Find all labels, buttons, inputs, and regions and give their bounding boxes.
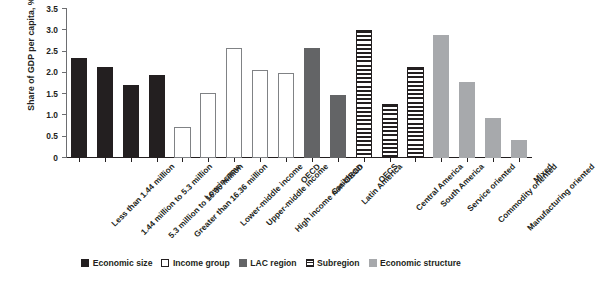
- bar[interactable]: [485, 118, 501, 158]
- legend-label: Income group: [173, 258, 230, 268]
- legend-item[interactable]: LAC region: [239, 258, 297, 268]
- bar-slot: [174, 9, 190, 158]
- bar-slot: [97, 9, 113, 158]
- bar-slot: [252, 9, 268, 158]
- bar-slot: [407, 9, 423, 158]
- bar[interactable]: [304, 48, 320, 158]
- bar-slot: [71, 9, 87, 158]
- bar[interactable]: [174, 127, 190, 158]
- y-axis-tick-label: 3.5: [46, 4, 58, 14]
- x-axis-label: Less than 1.44 million: [110, 162, 177, 229]
- bar-slot: [433, 9, 449, 158]
- bar[interactable]: [226, 48, 242, 158]
- bar-slot: [200, 9, 216, 158]
- legend-swatch-icon: [239, 259, 247, 267]
- bar[interactable]: [149, 75, 165, 158]
- legend-item[interactable]: Subregion: [306, 258, 360, 268]
- bar[interactable]: [71, 58, 87, 158]
- y-axis-tick-label: 1.0: [46, 110, 58, 120]
- legend-label: Economic structure: [380, 258, 461, 268]
- legend-item[interactable]: Income group: [161, 258, 229, 268]
- y-axis-title: Share of GDP per capita, %: [26, 0, 36, 129]
- bar[interactable]: [123, 85, 139, 158]
- y-axis-tick-label: 0.5: [46, 131, 58, 141]
- legend-swatch-icon: [161, 259, 169, 267]
- bar[interactable]: [97, 67, 113, 158]
- legend-swatch-icon: [369, 259, 377, 267]
- x-axis-labels: Less than 1.44 million1.44 million to 5.…: [66, 162, 542, 248]
- bar[interactable]: [278, 73, 294, 158]
- bar[interactable]: [459, 82, 475, 158]
- y-axis-tick-label: 2.0: [46, 67, 58, 77]
- bar[interactable]: [382, 104, 398, 158]
- bar-slot: [123, 9, 139, 158]
- legend-swatch-icon: [306, 259, 314, 267]
- bar-slot: [278, 9, 294, 158]
- bar-slot: [226, 9, 242, 158]
- y-axis-tick-label: 2.5: [46, 46, 58, 56]
- bar-slot: [149, 9, 165, 158]
- legend-item[interactable]: Economic structure: [369, 258, 461, 268]
- chart-legend: Economic sizeIncome groupLAC regionSubre…: [0, 258, 542, 268]
- y-axis-tick-label: 0: [53, 153, 58, 163]
- bar[interactable]: [252, 70, 268, 158]
- legend-swatch-icon: [81, 259, 89, 267]
- bar-slot: [459, 9, 475, 158]
- bar[interactable]: [330, 95, 346, 158]
- bar-slot: [356, 9, 372, 158]
- bar-slot: [485, 9, 501, 158]
- y-axis-tick-label: 1.5: [46, 89, 58, 99]
- legend-label: Subregion: [317, 258, 360, 268]
- plot-area: 00.51.01.52.02.53.03.5: [66, 9, 532, 158]
- x-axis-label: Caribbean: [330, 162, 365, 197]
- bar-slot: [330, 9, 346, 158]
- bar[interactable]: [407, 67, 423, 158]
- bar-slot: [382, 9, 398, 158]
- bar-slot: [304, 9, 320, 158]
- y-axis-tick-label: 3.0: [46, 25, 58, 35]
- legend-label: LAC region: [250, 258, 296, 268]
- bar-slot: [511, 9, 527, 158]
- bar[interactable]: [356, 30, 372, 158]
- bar[interactable]: [433, 35, 449, 158]
- legend-item[interactable]: Economic size: [81, 258, 152, 268]
- bar-series: [66, 9, 532, 158]
- legend-label: Economic size: [93, 258, 153, 268]
- bar[interactable]: [200, 93, 216, 158]
- bar[interactable]: [511, 140, 527, 158]
